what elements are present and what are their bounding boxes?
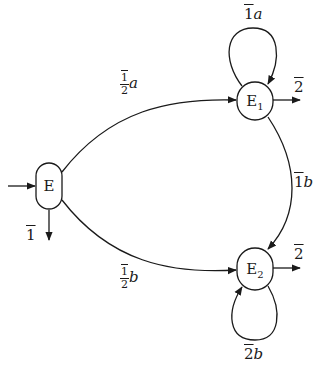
edge-e-e1 xyxy=(62,100,236,172)
output-label-e1: 2 xyxy=(294,80,304,95)
output-label-e2: 2 xyxy=(294,247,304,262)
node-e1-label: E1 xyxy=(237,92,273,112)
edge-label-e-e1: 12a xyxy=(120,72,138,96)
edge-symbol: b xyxy=(129,268,139,286)
fraction-num: 1 xyxy=(120,266,129,279)
edge-weight: 1 xyxy=(294,173,304,191)
edge-label-e-e2: 12b xyxy=(120,266,139,290)
edge-weight: 1 xyxy=(244,5,254,23)
fraction-num: 1 xyxy=(120,72,129,85)
node-e1-sub: 1 xyxy=(257,101,263,112)
node-e2-sub: 2 xyxy=(257,269,263,280)
edge-symbol: b xyxy=(304,173,314,191)
edge-label-e2-loop: 2b xyxy=(244,347,263,362)
output-label-e: 1 xyxy=(26,228,36,243)
fraction-den: 2 xyxy=(121,279,128,291)
edge-label-e1-loop: 1a xyxy=(244,7,263,22)
node-e-text: E xyxy=(44,177,55,195)
fraction-den: 2 xyxy=(121,85,128,97)
edge-e-e2 xyxy=(62,200,236,271)
edge-weight: 2 xyxy=(244,345,254,363)
edge-e1-e2 xyxy=(268,117,292,249)
edge-symbol: a xyxy=(129,74,138,92)
edge-symbol: a xyxy=(254,5,263,23)
edge-label-e1-e2: 1b xyxy=(294,175,313,190)
node-e2-text: E xyxy=(246,260,257,278)
fraction: 12 xyxy=(120,266,129,290)
node-e2-label: E2 xyxy=(237,260,273,280)
loop-e1 xyxy=(229,28,276,86)
loop-e2 xyxy=(232,286,277,340)
node-e-label: E xyxy=(36,177,62,195)
edge-symbol: b xyxy=(254,345,264,363)
node-e1-text: E xyxy=(246,92,257,110)
fraction: 12 xyxy=(120,72,129,96)
